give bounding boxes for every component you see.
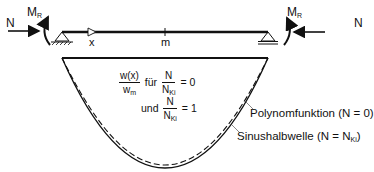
left-pinned-support-icon [51,32,73,45]
polynomial-condition: (N = 0) [338,107,373,119]
right-axial-force-label: N [354,17,363,29]
left-moment-subscript: R [37,12,42,19]
case2-fraction: N NKi [163,96,176,122]
case2-denominator-main: N [163,110,170,121]
ratio-denominator-sub: m [130,89,136,96]
case2-denominator: NKi [163,109,176,122]
sine-condition-suffix: ) [357,130,361,142]
left-moment-label: MR [27,6,42,19]
ratio-numerator: w(x) [119,70,140,83]
left-moment-symbol: M [27,5,37,19]
right-moment-arrow-icon [284,18,290,45]
ratio-denominator: wm [119,83,140,96]
case2-numerator: N [163,96,176,109]
case1-denominator: NKi [162,83,175,96]
polynomial-label: Polynomfunktion (N = 0) [250,108,374,120]
sine-half-wave-label: Sinushalbwelle (N = NKi) [237,131,361,143]
x-axis-marker-icon [88,28,96,36]
fuer-word: für [145,76,157,88]
sine-condition-prefix: (N = N [317,130,351,142]
left-axial-force-label: N [6,17,15,29]
case1-fraction: N NKi [162,70,175,96]
und-word: und [141,102,159,114]
right-moment-symbol: M [287,5,297,19]
midpoint-label: m [161,37,170,48]
case2-value: = 1 [182,102,197,114]
case2-denominator-sub: Ki [171,115,177,122]
case1-numerator: N [162,70,175,83]
formula-line-2: und N NKi = 1 [141,96,197,122]
right-moment-label: MR [287,6,302,19]
x-axis-label: x [89,37,95,48]
case1-denominator-sub: Ki [169,89,175,96]
deflection-ratio-fraction: w(x) wm [119,70,140,96]
formula-line-1: w(x) wm für N NKi = 0 [117,70,195,96]
right-roller-support-icon [258,32,278,44]
polynomial-name: Polynomfunktion [250,107,335,119]
case1-value: = 0 [180,76,195,88]
right-moment-subscript: R [297,12,302,19]
sine-name: Sinushalbwelle [237,130,314,142]
left-moment-arrow-icon [44,17,50,45]
